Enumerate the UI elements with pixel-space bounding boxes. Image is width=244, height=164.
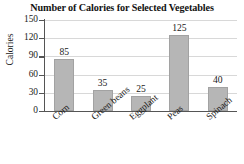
y-axis-label: Calories: [4, 23, 15, 77]
chart-title: Number of Calories for Selected Vegetabl…: [0, 2, 244, 13]
y-axis-tick-label: 150: [10, 15, 38, 24]
gridline: [45, 20, 237, 21]
y-axis-tick-label: 30: [10, 88, 38, 97]
y-axis-tick-label: 0: [10, 106, 38, 115]
bar-value-label: 40: [198, 75, 238, 85]
bar-chart: Number of Calories for Selected Vegetabl…: [0, 0, 244, 164]
y-axis-tick-label: 60: [10, 70, 38, 79]
y-axis-tick-label: 120: [10, 33, 38, 42]
bar-value-label: 125: [159, 23, 199, 33]
plot-area: [45, 20, 237, 111]
y-axis-tick-label: 90: [10, 51, 38, 60]
bar-value-label: 85: [44, 47, 84, 57]
bar-value-label: 35: [83, 78, 123, 88]
gridline: [45, 38, 237, 39]
bar: [169, 35, 189, 111]
